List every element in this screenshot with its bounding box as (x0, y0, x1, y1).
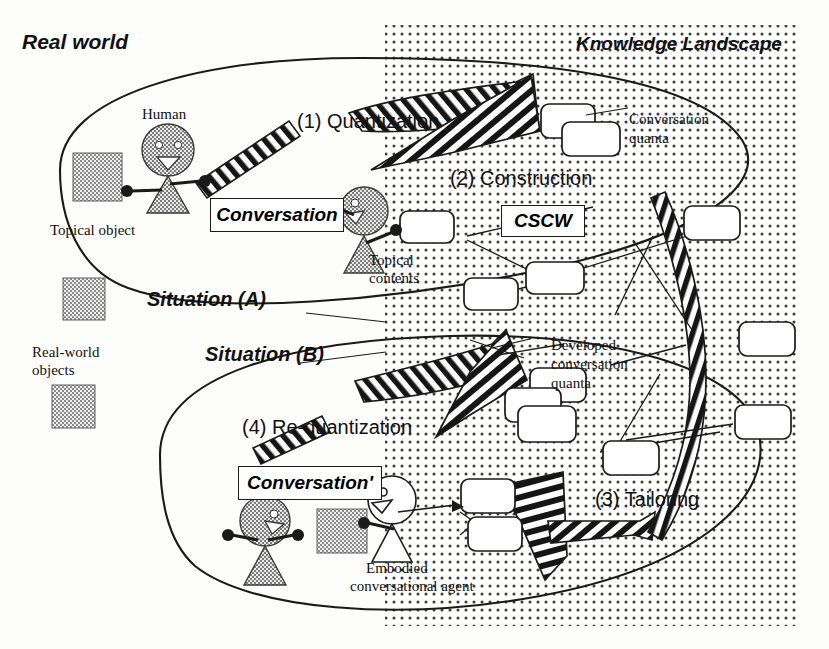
object-square (73, 153, 122, 201)
step-label-construction: (2) Construction (450, 167, 592, 190)
annotation-real-world-objects-line1: Real-world (32, 344, 99, 361)
annotation-conversation-quanta-line2: quanta (629, 130, 669, 147)
annotation-human: Human (142, 106, 186, 123)
quanta-node (468, 517, 522, 551)
diagram-svg (0, 0, 829, 649)
region-label-real-world: Real world (22, 30, 128, 54)
quanta-node (735, 405, 791, 439)
conversation-box: Conversation (210, 198, 344, 232)
cscw-box-label: CSCW (514, 210, 572, 232)
annotation-eca-line2: conversational agent (350, 578, 474, 595)
annotation-developed-quanta-line2: conversation (551, 356, 628, 373)
cscw-box: CSCW (501, 205, 585, 237)
annotation-topical-object: Topical object (50, 222, 135, 239)
diagram-canvas: Real world Knowledge Landscape Human Top… (0, 0, 829, 649)
step-label-requantization: (4) Re-quantization (242, 416, 412, 439)
quanta-node (400, 211, 454, 243)
annotation-real-world-objects-line2: objects (32, 362, 75, 379)
annotation-developed-quanta-line1: Developed (551, 337, 616, 354)
conversation-prime-box: Conversation' (238, 466, 382, 500)
annotation-topical-contents-line2: contents (369, 270, 419, 287)
quanta-node (562, 122, 620, 156)
situation-a-label: Situation (A) (147, 288, 266, 311)
quanta-node (684, 206, 740, 240)
annotation-eca-line1: Embodied (366, 560, 428, 577)
region-label-knowledge-landscape: Knowledge Landscape (576, 33, 782, 55)
step-label-quantization: (1) Quantization (297, 110, 439, 133)
object-square (52, 385, 95, 428)
quanta-node (526, 262, 584, 294)
human-figure-3 (222, 496, 304, 585)
quanta-node (464, 278, 518, 310)
object-square (63, 278, 105, 320)
conversation-prime-box-label: Conversation' (247, 472, 373, 494)
annotation-conversation-quanta-line1: Conversation (629, 111, 709, 128)
human-figure-1 (121, 124, 211, 213)
object-square (317, 509, 367, 553)
annotation-topical-contents-line1: Topical (369, 252, 414, 269)
conversation-box-label: Conversation (216, 204, 337, 226)
quanta-node (603, 441, 659, 475)
situation-b-label: Situation (B) (205, 343, 324, 366)
quanta-node (739, 322, 795, 356)
annotation-developed-quanta-line3: quanta (551, 375, 591, 392)
quanta-node (518, 406, 576, 442)
quanta-node (461, 479, 515, 513)
quantization-arrow-small (196, 121, 300, 198)
step-label-tailoring: (3) Tailoring (595, 488, 699, 511)
